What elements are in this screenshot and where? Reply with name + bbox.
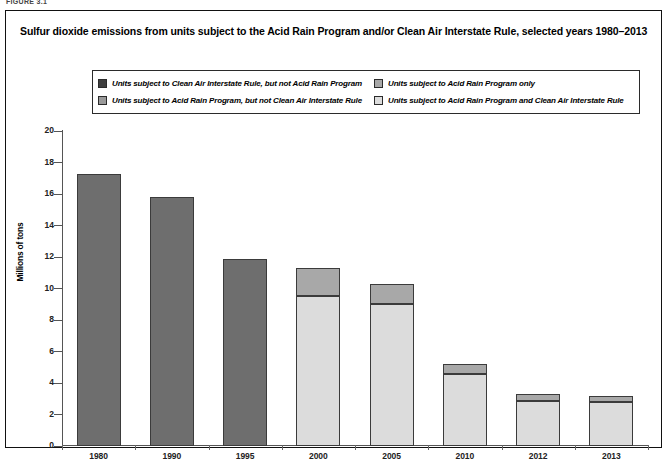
x-axis-tick [428, 445, 429, 450]
legend-swatch-icon [374, 79, 383, 88]
bar-group[interactable] [150, 131, 194, 446]
y-axis-tick-label: 8 [14, 314, 54, 324]
x-axis-tick-label: 2012 [508, 451, 568, 461]
bar-segment[interactable] [370, 284, 414, 304]
legend-column-left: Units subject to Clean Air Interstate Ru… [98, 75, 362, 109]
x-axis-tick-label: 1990 [142, 451, 202, 461]
legend-swatch-icon [98, 79, 107, 88]
y-axis-tick-label: 18 [14, 157, 54, 167]
x-axis-tick-label: 2013 [581, 451, 641, 461]
y-axis-tick-label: 20 [14, 125, 54, 135]
bar-segment[interactable] [516, 394, 560, 401]
figure-caption: FIGURE 3.1 [6, 0, 47, 5]
legend-item: Units subject to Acid Rain Program, but … [98, 92, 362, 109]
x-axis-tick [62, 445, 63, 450]
legend-item-label: Units subject to Clean Air Interstate Ru… [112, 79, 362, 88]
bar-group[interactable] [443, 131, 487, 446]
legend-item: Units subject to Acid Rain Program only [374, 75, 624, 92]
bar-segment[interactable] [223, 259, 267, 446]
x-axis-tick [502, 445, 503, 450]
y-axis-tick [54, 320, 62, 321]
bar-group[interactable] [77, 131, 121, 446]
x-axis-tick [575, 445, 576, 450]
bar-segment[interactable] [443, 364, 487, 373]
y-axis-tick-label: 12 [14, 251, 54, 261]
figure-container: Sulfur dioxide emissions from units subj… [5, 10, 662, 448]
plot-area [62, 131, 648, 446]
bar-segment[interactable] [443, 374, 487, 446]
legend-item: Units subject to Clean Air Interstate Ru… [98, 75, 362, 92]
legend-item-label: Units subject to Acid Rain Program and C… [388, 96, 624, 105]
y-axis-tick [54, 383, 62, 384]
y-axis-tick-label: 2 [14, 409, 54, 419]
x-axis-tick-label: 2000 [288, 451, 348, 461]
y-axis-tick-label: 14 [14, 220, 54, 230]
y-axis-tick [54, 162, 62, 163]
legend-swatch-icon [98, 96, 107, 105]
legend-swatch-icon [374, 96, 383, 105]
y-axis-tick [54, 414, 62, 415]
y-axis-tick [54, 225, 62, 226]
x-axis-tick-label: 2005 [362, 451, 422, 461]
bar-group[interactable] [223, 131, 267, 446]
bar-segment[interactable] [77, 174, 121, 446]
x-axis-tick-label: 1995 [215, 451, 275, 461]
y-axis-tick [54, 288, 62, 289]
x-axis-tick [209, 445, 210, 450]
bar-segment[interactable] [589, 402, 633, 446]
bar-segment[interactable] [296, 268, 340, 296]
bar-group[interactable] [516, 131, 560, 446]
y-axis-tick [54, 194, 62, 195]
y-axis-tick-label: 0 [14, 440, 54, 450]
x-axis-tick-label: 1980 [69, 451, 129, 461]
bar-group[interactable] [370, 131, 414, 446]
y-axis-tick-label: 16 [14, 188, 54, 198]
x-axis-tick [648, 445, 649, 450]
legend-item-label: Units subject to Acid Rain Program only [388, 79, 535, 88]
bar-group[interactable] [589, 131, 633, 446]
y-axis-tick [54, 257, 62, 258]
bar-segment[interactable] [150, 197, 194, 446]
y-axis-tick [54, 446, 62, 447]
y-axis-tick-label: 4 [14, 377, 54, 387]
x-axis-tick-label: 2010 [435, 451, 495, 461]
legend-item-label: Units subject to Acid Rain Program, but … [112, 96, 362, 105]
bar-segment[interactable] [516, 401, 560, 446]
x-axis-tick [135, 445, 136, 450]
y-axis-tick-label: 10 [14, 283, 54, 293]
bar-group[interactable] [296, 131, 340, 446]
legend-item: Units subject to Acid Rain Program and C… [374, 92, 624, 109]
y-axis-tick [54, 351, 62, 352]
bar-segment[interactable] [370, 304, 414, 446]
bar-segment[interactable] [589, 396, 633, 402]
chart-legend: Units subject to Clean Air Interstate Ru… [92, 70, 640, 114]
bar-segment[interactable] [296, 296, 340, 446]
x-axis-tick [282, 445, 283, 450]
y-axis-tick-label: 6 [14, 346, 54, 356]
chart-title: Sulfur dioxide emissions from units subj… [20, 25, 650, 38]
x-axis-tick [355, 445, 356, 450]
y-axis-tick [54, 131, 62, 132]
legend-column-right: Units subject to Acid Rain Program only … [374, 75, 624, 109]
